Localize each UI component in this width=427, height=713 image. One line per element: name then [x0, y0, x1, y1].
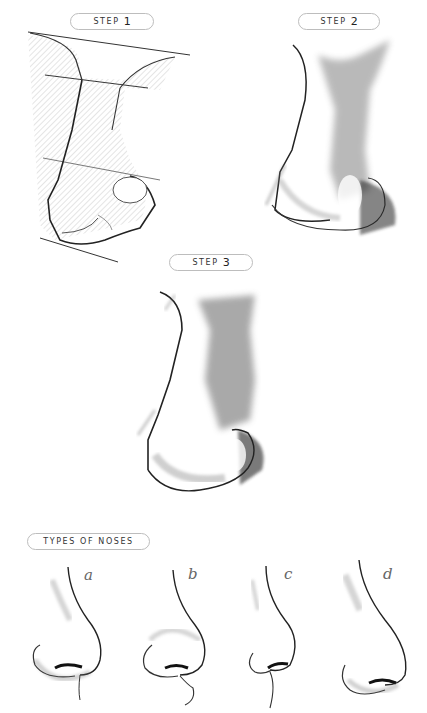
illustrations [0, 0, 427, 713]
nose-type-c-letter: c [284, 565, 292, 583]
nose-type-d-letter: d [383, 565, 393, 583]
nose-type-a [33, 567, 100, 700]
step-1-drawing [28, 32, 190, 262]
nose-type-a-letter: a [84, 566, 93, 584]
nose-type-b [144, 570, 205, 705]
step-3-drawing [138, 292, 264, 491]
step-2-drawing [266, 40, 396, 235]
nose-type-b-letter: b [188, 565, 198, 583]
nose-type-c [249, 566, 295, 708]
nose-type-d [342, 560, 405, 694]
